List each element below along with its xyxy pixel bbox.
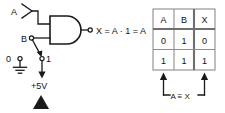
table-header-a: A [160,15,166,25]
wire-a-to-gate [32,11,50,24]
logic-diagram: A X = A · 1 = A B 0 [0,0,225,113]
output-expression-label: X = A · 1 = A [96,26,146,36]
output-terminal-node[interactable] [88,28,92,32]
annotation-arrow-x-icon [201,73,208,81]
logic-high-terminal-node[interactable] [40,57,44,61]
input-b-label: B [21,34,27,44]
marker-triangle-icon [33,95,49,109]
and-gate-body[interactable] [50,16,81,44]
figure-canvas: A X = A · 1 = A B 0 [0,0,225,113]
annotation-arrow-a-icon [160,73,167,81]
table-header-b: B [181,15,187,25]
table-cell-r1-b: 1 [181,36,186,46]
table-cell-r1-a: 0 [161,36,166,46]
table-cell-r2-b: 1 [181,56,186,66]
supply-arrow-icon [38,72,45,79]
input-b-terminal-node[interactable] [29,36,33,40]
table-cell-r1-x: 0 [202,36,207,46]
ground-icon [14,67,27,73]
logic-high-label: 1 [46,54,51,64]
equivalence-annotation: A ≡ X [160,73,208,101]
input-a-arrow-icon [22,4,32,18]
table-cell-r2-a: 1 [161,56,166,66]
table-header-x: X [201,15,207,25]
annotation-label: A ≡ X [171,92,191,101]
truth-table-group: A B X 0 1 0 1 1 1 [153,9,215,101]
circuit-group: A X = A · 1 = A B 0 [6,4,146,109]
input-a-label: A [11,7,17,17]
table-cell-r2-x: 1 [202,56,207,66]
supply-label: +5V [31,81,47,91]
logic-low-label: 0 [6,54,11,64]
